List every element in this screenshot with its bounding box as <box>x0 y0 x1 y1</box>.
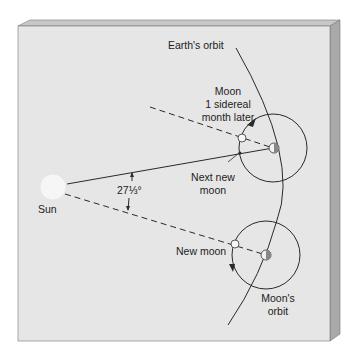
label-angle: 27⅓° <box>117 184 142 196</box>
label-moons-orbit-1: Moon's <box>261 292 295 304</box>
label-sun: Sun <box>38 203 57 215</box>
panel-side-bevel <box>330 20 340 341</box>
label-moon-later-2: 1 sidereal <box>205 98 251 110</box>
label-moons-orbit-2: orbit <box>268 305 289 317</box>
panel-top-bevel <box>18 20 340 26</box>
label-earths-orbit: Earth's orbit <box>168 39 224 51</box>
sun-icon <box>40 174 66 200</box>
label-new-moon: New moon <box>176 245 226 257</box>
moon-later-icon <box>238 134 246 142</box>
diagram-canvas: Earth's orbit Moon 1 sidereal month late… <box>0 0 350 355</box>
new-moon-icon <box>231 240 239 248</box>
next-new-moon-point <box>239 152 242 155</box>
label-next-new-1: Next new <box>191 171 235 183</box>
label-moon-later-3: month later <box>202 111 255 123</box>
label-moon-later-1: Moon <box>215 85 241 97</box>
label-next-new-2: moon <box>200 184 226 196</box>
